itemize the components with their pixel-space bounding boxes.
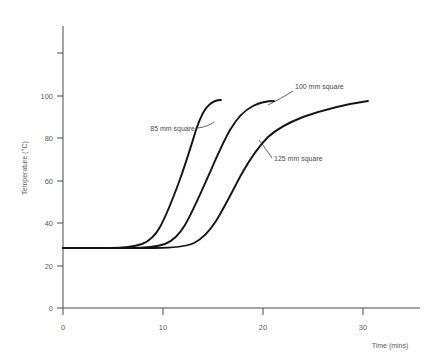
- y-tick-label-40: 40: [45, 219, 53, 228]
- x-tick-label-20: 20: [259, 323, 267, 332]
- y-tick-label-80: 80: [45, 134, 53, 143]
- annotation-label-85mm: 85 mm square: [150, 125, 195, 133]
- x-tick-label-0: 0: [61, 323, 65, 332]
- y-tick-label-20: 20: [45, 262, 53, 271]
- annotation-label-125mm: 125 mm square: [274, 155, 323, 163]
- y-tick-label-0: 0: [49, 304, 53, 313]
- chart-canvas: 0 20 40 60 80 100 0 10 20 30 Temperature…: [0, 0, 434, 362]
- curve-85mm: [63, 100, 221, 248]
- x-tick-label-10: 10: [159, 323, 167, 332]
- leader-line-85mm: [198, 122, 214, 128]
- y-tick-label-100: 100: [40, 92, 53, 101]
- x-axis-title: Time (mins): [372, 342, 409, 350]
- curve-125mm: [63, 101, 368, 248]
- y-tick-label-60: 60: [45, 177, 53, 186]
- leader-line-125mm: [259, 140, 272, 158]
- x-tick-label-30: 30: [359, 323, 367, 332]
- annotation-label-100mm: 100 mm square: [295, 83, 344, 91]
- temperature-time-line-chart: 0 20 40 60 80 100 0 10 20 30 Temperature…: [0, 0, 434, 362]
- y-axis-title: Temperature (°C): [21, 141, 29, 195]
- leader-line-100mm: [268, 91, 293, 105]
